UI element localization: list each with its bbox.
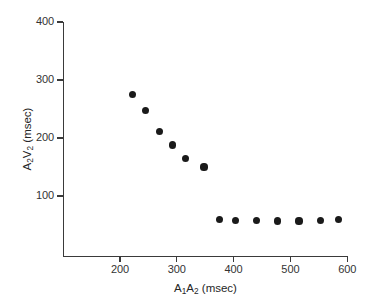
y-axis-title-units: (msec)	[21, 108, 33, 146]
x-tick-label-300: 300	[157, 263, 197, 275]
y-tick-200	[57, 137, 63, 138]
x-axis-origin-tick	[63, 250, 64, 256]
x-axis-title-units: (msec)	[199, 282, 237, 294]
x-axis-title-a1: A1A2	[174, 282, 199, 294]
data-point	[335, 216, 342, 223]
data-point	[317, 217, 324, 224]
x-tick-label-500: 500	[270, 263, 310, 275]
x-tick-400	[233, 256, 234, 262]
x-axis-line	[63, 256, 348, 257]
data-point	[232, 217, 239, 224]
data-point	[182, 155, 189, 162]
x-tick-label-600: 600	[327, 263, 367, 275]
x-tick-label-400: 400	[214, 263, 254, 275]
y-axis-title: A2V2 (msec)	[21, 59, 33, 219]
data-point	[295, 217, 302, 224]
data-point	[129, 91, 136, 98]
y-axis-title-a2v2: A2V2	[21, 146, 33, 171]
data-point	[156, 128, 163, 135]
data-point	[142, 107, 149, 114]
x-axis-title: A1A2 (msec)	[63, 282, 348, 294]
y-axis-line	[63, 22, 64, 257]
y-tick-label-400: 400	[24, 15, 54, 27]
y-tick-400	[57, 21, 63, 22]
y-tick-100	[57, 195, 63, 196]
data-point	[216, 216, 223, 223]
data-point	[253, 217, 260, 224]
data-point	[200, 163, 207, 170]
data-point	[274, 217, 281, 224]
scatter-plot-figure: 100200300400 200300400500600 A1A2 (msec)…	[0, 0, 372, 305]
plot-data-area	[0, 0, 372, 305]
x-tick-200	[119, 256, 120, 262]
x-tick-300	[176, 256, 177, 262]
y-tick-300	[57, 79, 63, 80]
x-tick-500	[290, 256, 291, 262]
x-tick-label-200: 200	[100, 263, 140, 275]
data-point	[169, 141, 176, 148]
x-tick-600	[347, 256, 348, 262]
